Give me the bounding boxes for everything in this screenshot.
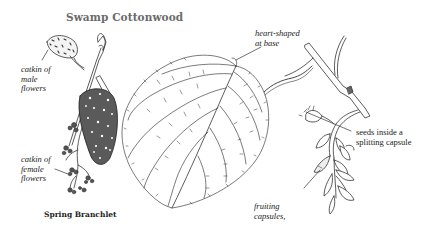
label-male-catkin: catkin of male flowers <box>21 65 51 94</box>
label-seeds-splitting-capsule: seeds inside a splitting capsule <box>356 128 411 147</box>
label-fruiting-capsules: fruiting capsules, 1.1–1.3 cm (0.5 in) l… <box>254 183 296 234</box>
illustration-title: Swamp Cottonwood <box>66 11 183 23</box>
male-catkin-leader <box>42 50 48 60</box>
female-catkin-leader <box>55 169 68 174</box>
fruiting-capsules <box>314 134 354 214</box>
label-heart-shaped: heart-shaped at base <box>255 29 300 48</box>
fruiting-capsules-leader <box>304 170 320 188</box>
male-catkin <box>47 36 84 71</box>
female-catkin-cluster <box>79 89 118 165</box>
spring-branchlet <box>42 34 117 194</box>
botanical-illustration <box>0 0 435 234</box>
heart-shaped-leader <box>236 47 261 60</box>
label-female-catkin: catkin of female flowers <box>21 155 51 184</box>
fruiting-label-title: fruiting capsules, <box>254 202 296 221</box>
fruiting-twig <box>285 36 370 214</box>
spring-branchlet-caption: Spring Branchlet <box>44 210 116 219</box>
